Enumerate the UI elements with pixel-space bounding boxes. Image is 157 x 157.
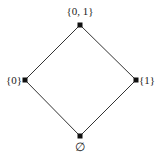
edge-right-top bbox=[80, 25, 136, 80]
nodes bbox=[23, 23, 139, 139]
node-bottom bbox=[78, 134, 83, 139]
edges bbox=[25, 25, 136, 136]
node-label-bottom: ∅ bbox=[73, 141, 87, 153]
node-top bbox=[78, 23, 83, 28]
node-label-left: {0} bbox=[5, 74, 22, 86]
node-label-top: {0, 1} bbox=[64, 5, 96, 17]
diagram-graphic bbox=[0, 0, 157, 157]
node-left bbox=[23, 78, 28, 83]
edge-bottom-right bbox=[80, 80, 136, 136]
hasse-diagram: {0, 1} {0} {1} ∅ bbox=[0, 0, 157, 157]
edge-left-top bbox=[25, 25, 80, 80]
node-label-right: {1} bbox=[139, 74, 155, 86]
node-right bbox=[134, 78, 139, 83]
edge-bottom-left bbox=[25, 80, 80, 136]
